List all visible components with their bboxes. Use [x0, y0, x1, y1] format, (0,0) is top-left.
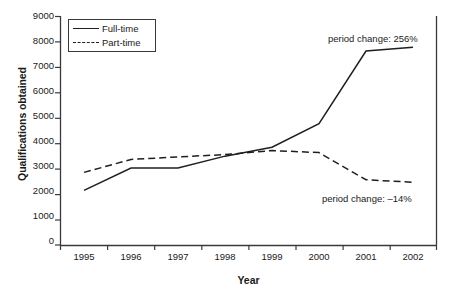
line-chart: Qualifications obtained 9000 8000 7000 6… — [0, 0, 449, 296]
series-line-part-time — [84, 151, 413, 183]
x-tick-label: 2001 — [339, 251, 393, 262]
annotation-part-time-period-change: period change: –14% — [322, 193, 412, 204]
legend-item-full-time: Full-time — [73, 22, 153, 36]
x-axis-title: Year — [60, 274, 437, 286]
legend-line-sample-solid-icon — [73, 28, 99, 31]
x-tick-label: 1998 — [198, 251, 252, 262]
x-tick-label: 2002 — [386, 251, 440, 262]
legend-label: Part-time — [102, 36, 141, 50]
legend-label: Full-time — [102, 22, 138, 36]
x-tick-label: 2000 — [292, 251, 346, 262]
x-tick-label: 1996 — [104, 251, 158, 262]
x-tick-label: 1999 — [245, 251, 299, 262]
legend-item-part-time: Part-time — [73, 36, 153, 50]
series-line-full-time — [84, 47, 413, 190]
chart-legend: Full-time Part-time — [68, 19, 156, 52]
annotation-full-time-period-change: period change: 256% — [328, 33, 418, 44]
x-tick-label: 1995 — [57, 251, 111, 262]
legend-line-sample-dashed-icon — [73, 42, 99, 45]
y-axis-ticks — [55, 17, 60, 246]
x-tick-label: 1997 — [151, 251, 205, 262]
